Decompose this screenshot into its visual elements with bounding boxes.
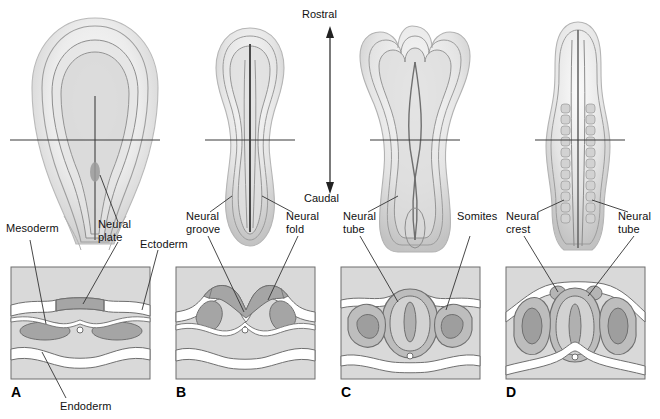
- cross-section-panel-a: [11, 267, 150, 379]
- panel-letter-c: C: [341, 384, 351, 400]
- panel-letter-b: B: [176, 384, 186, 400]
- label-somites: Somites: [457, 210, 497, 223]
- label-ectoderm: Ectoderm: [140, 238, 188, 251]
- cross-section-panel-c: [341, 267, 480, 379]
- embryo-dorsal-view-c: [360, 26, 470, 252]
- neurulation-figure: [0, 0, 660, 419]
- axis-caudal-label: Caudal: [304, 192, 339, 204]
- embryo-dorsal-view-a: [10, 18, 160, 250]
- label-neural-fold: Neural fold: [286, 210, 319, 235]
- label-neural-groove: Neural groove: [186, 210, 220, 235]
- cross-section-panel-b: [176, 267, 315, 379]
- label-neural-crest: Neural crest: [506, 210, 539, 235]
- label-endoderm: Endoderm: [60, 400, 112, 413]
- panel-letter-a: A: [11, 384, 21, 400]
- label-neural-plate: Neural plate: [98, 218, 131, 243]
- label-neural-tube-d: Neural tube: [618, 210, 651, 235]
- panel-letter-d: D: [506, 384, 516, 400]
- label-neural-tube-c: Neural tube: [343, 210, 376, 235]
- cross-section-panel-d: [506, 267, 645, 379]
- label-mesoderm: Mesoderm: [6, 222, 59, 235]
- rostral-caudal-axis-arrow: [326, 26, 334, 194]
- axis-rostral-label: Rostral: [302, 8, 337, 20]
- embryo-dorsal-view-d: [535, 22, 625, 250]
